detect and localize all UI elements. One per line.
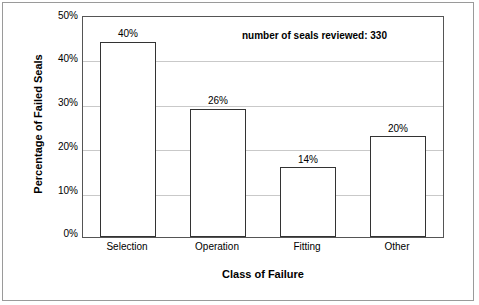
bar-value-label: 40% [118,28,138,39]
y-tick-label: 40% [58,53,78,64]
bar-slot-other: 20% [353,17,443,237]
y-tick-label: 50% [58,10,78,21]
y-axis-title: Percentage of Failed Seals [32,14,44,234]
plot-area: 40% 26% 14% 20% [82,16,444,238]
bar-value-label: 20% [388,123,408,134]
y-tick-label: 30% [58,97,78,108]
x-axis-tick-labels: Selection Operation Fitting Other [82,241,444,257]
bar-fitting[interactable] [280,167,336,237]
bar-value-label: 14% [298,154,318,165]
bar-value-label: 26% [208,95,228,106]
y-axis-tick-labels: 50% 40% 30% 20% 10% 0% [40,16,78,238]
bar-slot-operation: 26% [173,17,263,237]
y-tick-label: 20% [58,141,78,152]
x-tick-label: Other [384,241,409,252]
x-axis-title: Class of Failure [82,268,444,280]
x-tick-label: Operation [195,241,239,252]
bar-slot-fitting: 14% [263,17,353,237]
x-tick-label: Selection [106,241,147,252]
y-tick-label: 0% [64,228,78,239]
bar-selection[interactable] [100,42,156,237]
x-tick-label: Fitting [293,241,320,252]
bar-slot-selection: 40% [83,17,173,237]
chart-container: 50% 40% 30% 20% 10% 0% 40% 26% 14% [0,0,479,305]
bars-layer: 40% 26% 14% 20% [83,17,443,237]
bar-other[interactable] [370,136,426,237]
y-tick-label: 10% [58,185,78,196]
seals-reviewed-annotation: number of seals reviewed: 330 [242,30,387,41]
bar-operation[interactable] [190,109,246,237]
